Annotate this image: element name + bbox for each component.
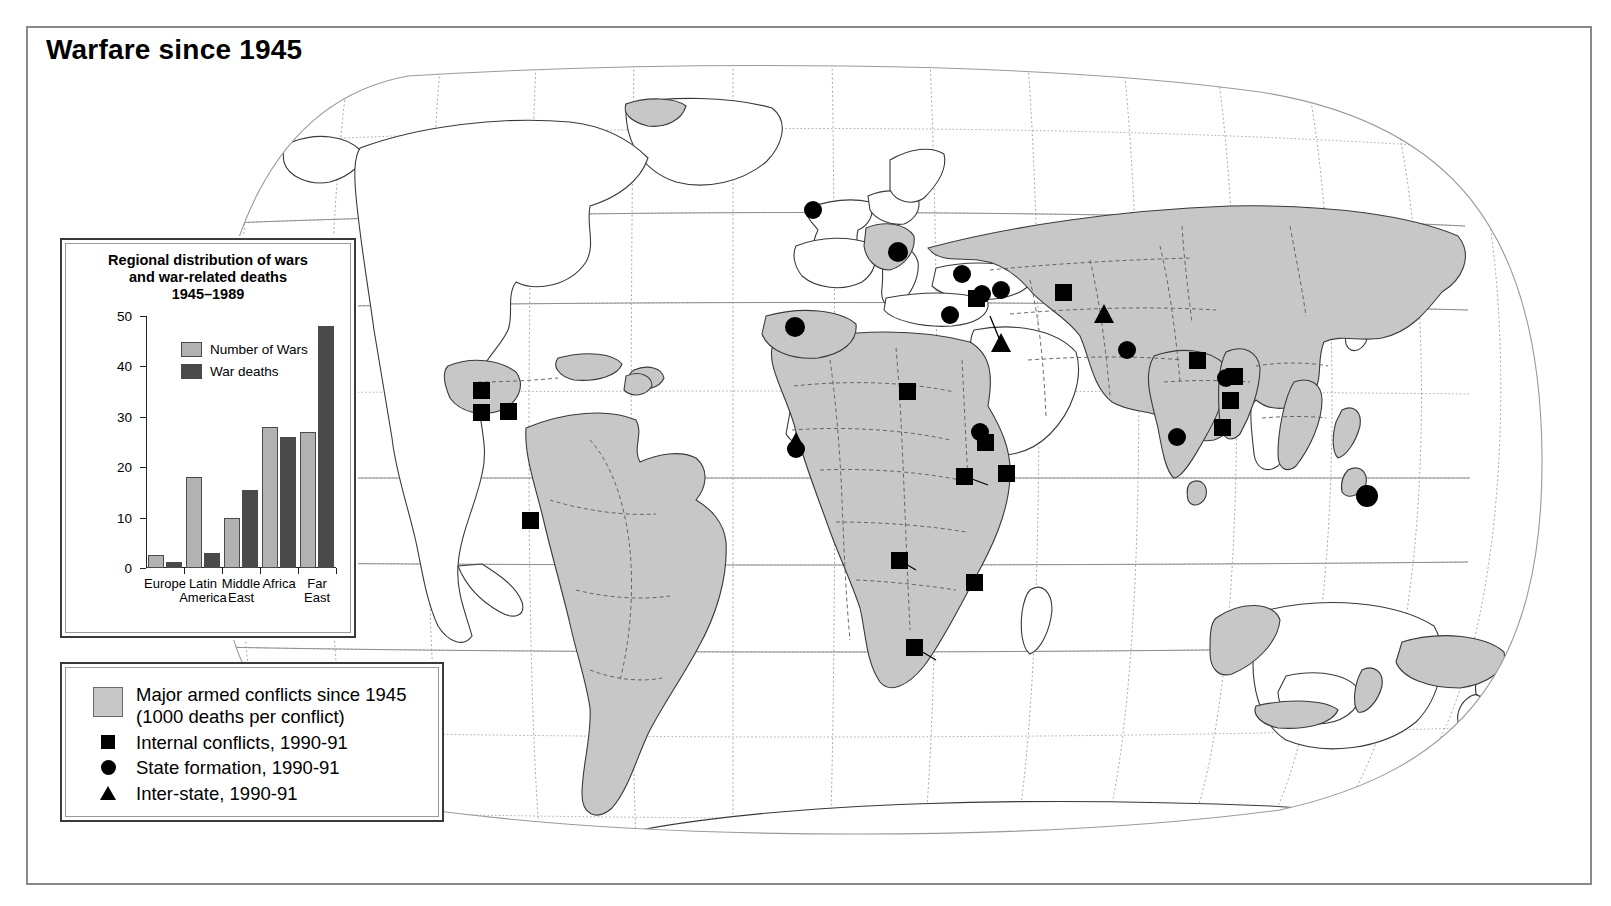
marker-internal-conflict: [906, 639, 923, 656]
marker-state-formation: [1118, 341, 1136, 359]
bar-number-of-wars: [148, 555, 164, 568]
marker-internal-conflict: [1189, 352, 1206, 369]
key-item-state-formation: State formation, 1990-91: [80, 757, 428, 779]
key-item-inter-state: Inter-state, 1990-91: [80, 783, 428, 805]
chart-y-tick: [140, 417, 146, 418]
bar-number-of-wars: [300, 432, 316, 568]
page-title: Warfare since 1945: [46, 34, 302, 66]
bar-war-deaths: [242, 490, 258, 568]
key-label-major-conflicts-line-1: Major armed conflicts since 1945: [136, 684, 406, 705]
chart-x-tick: [298, 568, 299, 574]
marker-internal-conflict: [522, 512, 539, 529]
chart-inset: Regional distribution of wars and war-re…: [60, 238, 356, 638]
key-label-state-formation: State formation, 1990-91: [136, 757, 340, 779]
chart-x-tick: [260, 568, 261, 574]
marker-internal-conflict: [473, 382, 490, 399]
bar-number-of-wars: [224, 518, 240, 568]
marker-state-formation: [804, 201, 822, 219]
marker-state-formation: [973, 285, 991, 303]
bar-war-deaths: [318, 326, 334, 568]
marker-internal-conflict: [1214, 419, 1231, 436]
marker-internal-conflict: [1055, 284, 1072, 301]
chart-plot-area: 01020304050 EuropeLatinAmericaMiddleEast…: [146, 316, 336, 568]
circle-marker-icon: [80, 757, 136, 775]
marker-internal-conflict: [1222, 392, 1239, 409]
marker-state-formation: [1356, 485, 1378, 507]
chart-y-tick-label: 0: [124, 561, 132, 576]
chart-title-line-3: 1945–1989: [66, 286, 350, 303]
marker-state-formation: [785, 317, 805, 337]
chart-y-tick: [140, 316, 146, 317]
chart-inner-frame: Regional distribution of wars and war-re…: [65, 243, 351, 633]
bar-war-deaths: [280, 437, 296, 568]
key-label-internal-conflicts: Internal conflicts, 1990-91: [136, 732, 348, 754]
marker-state-formation: [953, 265, 971, 283]
marker-internal-conflict: [998, 465, 1015, 482]
marker-internal-conflict: [966, 574, 983, 591]
chart-x-tick: [222, 568, 223, 574]
bar-war-deaths: [166, 562, 182, 568]
key-label-major-conflicts-line-2: (1000 deaths per conflict): [136, 706, 345, 727]
chart-y-tick-label: 40: [117, 359, 132, 374]
marker-internal-conflict: [899, 383, 916, 400]
key-item-internal-conflicts: Internal conflicts, 1990-91: [80, 732, 428, 754]
chart-y-tick: [140, 568, 146, 569]
marker-state-formation: [1217, 369, 1235, 387]
chart-title-line-1: Regional distribution of wars: [66, 252, 350, 269]
bar-number-of-wars: [262, 427, 278, 568]
map-key-inner-frame: Major armed conflicts since 1945 (1000 d…: [65, 667, 439, 817]
map-page: Warfare since 1945 Regional distribution…: [0, 0, 1611, 906]
chart-x-label: FarEast: [283, 577, 351, 605]
chart-y-tick: [140, 467, 146, 468]
chart-y-tick-label: 30: [117, 409, 132, 424]
chart-y-tick: [140, 366, 146, 367]
chart-x-tick: [184, 568, 185, 574]
map-key: Major armed conflicts since 1945 (1000 d…: [60, 662, 444, 822]
marker-state-formation: [888, 242, 908, 262]
chart-x-tick: [336, 568, 337, 574]
chart-title: Regional distribution of wars and war-re…: [66, 252, 350, 302]
chart-title-line-2: and war-related deaths: [66, 269, 350, 286]
marker-state-formation: [1168, 428, 1186, 446]
chart-y-axis: [146, 316, 147, 568]
marker-internal-conflict: [891, 552, 908, 569]
bar-war-deaths: [204, 553, 220, 568]
chart-y-tick-label: 10: [117, 510, 132, 525]
key-label-inter-state: Inter-state, 1990-91: [136, 783, 297, 805]
triangle-marker-icon: [80, 783, 136, 800]
area-swatch-icon: [80, 684, 136, 717]
key-item-major-armed-conflicts: Major armed conflicts since 1945 (1000 d…: [80, 684, 428, 728]
chart-y-tick-label: 20: [117, 460, 132, 475]
marker-state-formation: [992, 281, 1010, 299]
marker-internal-conflict: [473, 404, 490, 421]
chart-y-tick: [140, 518, 146, 519]
marker-state-formation: [941, 306, 959, 324]
marker-internal-conflict: [956, 468, 973, 485]
square-marker-icon: [80, 732, 136, 749]
bar-number-of-wars: [186, 477, 202, 568]
marker-internal-conflict: [500, 403, 517, 420]
chart-y-tick-label: 50: [117, 309, 132, 324]
marker-state-formation: [971, 423, 989, 441]
